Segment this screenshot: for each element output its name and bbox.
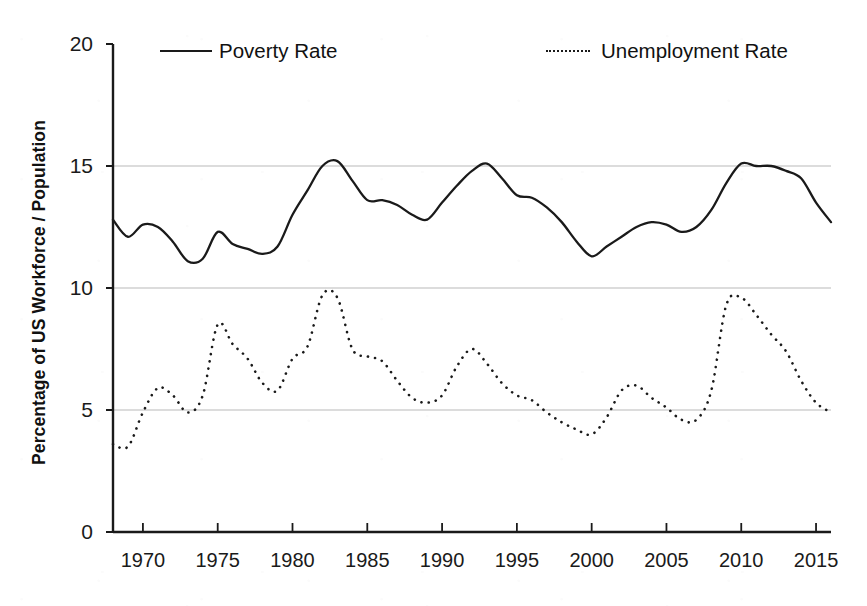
legend-label-unemployment-rate: Unemployment Rate: [601, 39, 788, 63]
x-axis-tick-labels: 1970197519801985199019952000200520102015: [0, 0, 867, 606]
poverty-unemployment-chart: 05101520 1970197519801985199019952000200…: [0, 0, 867, 606]
legend-item-unemployment-rate[interactable]: Unemployment Rate: [542, 34, 788, 68]
dotted-line-icon: [542, 45, 594, 57]
x-tick-label-2015: 2015: [771, 550, 861, 570]
legend-label-poverty-rate: Poverty Rate: [219, 39, 338, 63]
solid-line-icon: [160, 45, 212, 57]
chart-legend: Poverty Rate Unemployment Rate: [160, 34, 800, 68]
y-axis-title: Percentage of US Workforce / Population: [29, 58, 50, 528]
legend-item-poverty-rate[interactable]: Poverty Rate: [160, 34, 338, 68]
